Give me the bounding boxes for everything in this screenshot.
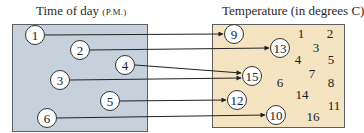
range-element: 2 [327, 27, 334, 40]
domain-element-circle: 1 [25, 25, 45, 45]
range-element: 3 [313, 41, 320, 54]
range-title: Temperature (in degrees C) [222, 3, 364, 19]
domain-title: Time of day (P.M.) [36, 3, 127, 19]
range-element: 7 [309, 67, 316, 80]
range-element: 8 [328, 76, 335, 89]
range-element: 4 [295, 53, 302, 66]
range-element-circle: 13 [270, 38, 290, 58]
range-element-circle: 12 [227, 90, 247, 110]
range-element: 14 [296, 88, 309, 101]
range-element-circle: 10 [266, 105, 286, 125]
range-element-circle: 9 [224, 24, 244, 44]
range-element-circle: 15 [242, 66, 262, 86]
range-element: 5 [328, 53, 335, 66]
domain-element-circle: 2 [70, 40, 90, 60]
domain-element-circle: 4 [115, 55, 135, 75]
domain-element-circle: 6 [37, 108, 57, 128]
domain-element-circle: 3 [50, 70, 70, 90]
domain-element-circle: 5 [100, 91, 120, 111]
domain-title-unit: (P.M.) [102, 7, 126, 17]
domain-title-text: Time of day [36, 3, 99, 18]
range-element: 11 [328, 99, 341, 112]
range-element: 1 [298, 27, 305, 40]
range-element: 16 [307, 110, 320, 123]
range-element: 6 [277, 76, 284, 89]
